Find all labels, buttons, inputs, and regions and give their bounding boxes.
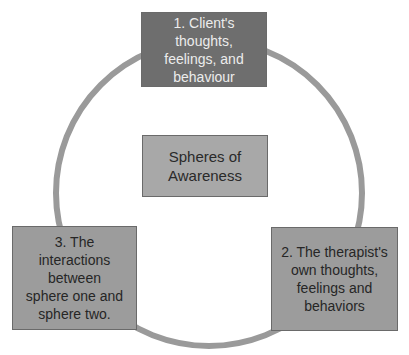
sphere-3-interactions-box: 3. The interactions between sphere one a… [12, 226, 137, 330]
sphere-2-therapist-box: 2. The therapist's own thoughts, feeling… [271, 227, 398, 331]
sphere-1-client-box: 1. Client's thoughts, feelings, and beha… [141, 12, 267, 87]
center-title-box: Spheres of Awareness [142, 135, 268, 197]
